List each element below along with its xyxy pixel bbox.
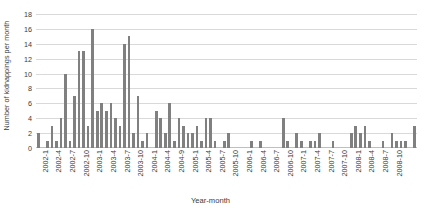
x-axis-tick-label: 2004-1 [150, 150, 159, 172]
bar [332, 141, 335, 148]
bar [96, 111, 99, 148]
bar [173, 141, 176, 148]
bar [205, 118, 208, 148]
bar [227, 133, 230, 148]
x-axis-tick-label: 2006-10 [286, 150, 295, 176]
bar [164, 133, 167, 148]
bar [250, 141, 253, 148]
x-axis-tick-label: 2005-7 [218, 150, 227, 172]
bar [73, 96, 76, 148]
x-axis-tick-label: 2002-1 [41, 150, 50, 172]
x-axis-tick-label: 2007-4 [313, 150, 322, 172]
y-axis-tick-label: 0 [28, 144, 32, 153]
x-axis-tick-label: 2008-7 [381, 150, 390, 172]
y-axis-tick-label: 10 [24, 69, 32, 78]
x-axis-tick-label: 2005-10 [231, 150, 240, 176]
bar [223, 141, 226, 148]
bar [359, 133, 362, 148]
bar [137, 96, 140, 148]
bar [318, 133, 321, 148]
bar [46, 141, 49, 148]
bar [382, 141, 385, 148]
bar [69, 141, 72, 148]
bar [354, 126, 357, 148]
bar [168, 103, 171, 148]
y-axis-tick-label: 4 [28, 114, 32, 123]
x-axis-tick-label: 2003-7 [123, 150, 132, 172]
x-axis-title: Year-month [0, 196, 421, 205]
bar [214, 141, 217, 148]
bar [155, 111, 158, 148]
bar [400, 141, 403, 148]
bar [91, 29, 94, 148]
x-axis-tick-label: 2007-10 [340, 150, 349, 176]
bar [191, 133, 194, 148]
x-axis-tick-label: 2002-7 [68, 150, 77, 172]
bar [146, 133, 149, 148]
bar [64, 74, 67, 148]
bar [51, 126, 54, 148]
y-axis-tick-label: 2 [28, 129, 32, 138]
y-axis-tick-label: 16 [24, 24, 32, 33]
bar [286, 141, 289, 148]
y-axis-tick-label: 12 [24, 54, 32, 63]
bar [209, 118, 212, 148]
bar [196, 126, 199, 148]
x-axis-tick-label: 2008-10 [395, 150, 404, 176]
bar [309, 141, 312, 148]
bar [200, 141, 203, 148]
x-axis-tick-label: 2008-4 [367, 150, 376, 172]
y-axis-title-text: Number of kidnappings per month [3, 20, 12, 130]
y-axis-tick-labels: 024681012141618 [14, 14, 34, 148]
bar-chart: Number of kidnappings per month 02468101… [0, 0, 421, 217]
bar [37, 133, 40, 148]
bar [60, 118, 63, 148]
bar [128, 36, 131, 148]
x-axis-tick-label: 2006-7 [272, 150, 281, 172]
x-axis-tick-label: 2005-1 [191, 150, 200, 172]
x-axis-tick-label: 2002-10 [82, 150, 91, 176]
x-axis-tick-label: 2004-9 [177, 150, 186, 172]
bar [110, 103, 113, 148]
bar [119, 126, 122, 148]
bar [391, 133, 394, 148]
x-axis-tick-label: 2007-1 [299, 150, 308, 172]
bar [368, 141, 371, 148]
bar [295, 133, 298, 148]
bar-series [36, 14, 417, 148]
bar [105, 111, 108, 148]
bar [123, 44, 126, 148]
bar [159, 118, 162, 148]
plot-area [36, 14, 417, 148]
x-axis-tick-label: 2006-1 [245, 150, 254, 172]
bar [404, 141, 407, 148]
x-axis-tick-label: 2005-4 [204, 150, 213, 172]
x-axis-tick-label: 2003-1 [95, 150, 104, 172]
bar [364, 126, 367, 148]
bar [259, 141, 262, 148]
y-axis-tick-label: 14 [24, 39, 32, 48]
bar [395, 141, 398, 148]
bar [82, 51, 85, 148]
bar [182, 126, 185, 148]
bar [350, 133, 353, 148]
bar [55, 141, 58, 148]
bar [100, 103, 103, 148]
bar [187, 133, 190, 148]
bar [87, 126, 90, 148]
bar [314, 141, 317, 148]
x-axis-tick-labels: 2002-12002-42002-72002-102003-12003-4200… [36, 150, 417, 190]
bar [141, 141, 144, 148]
y-axis-title: Number of kidnappings per month [0, 0, 14, 150]
bar [114, 118, 117, 148]
bar [178, 118, 181, 148]
bar [282, 118, 285, 148]
bar [78, 51, 81, 148]
bar [132, 133, 135, 148]
x-axis-tick-label: 2003-10 [136, 150, 145, 176]
x-axis-tick-label: 2003-4 [109, 150, 118, 172]
bar [300, 141, 303, 148]
x-axis-tick-label: 2007-7 [327, 150, 336, 172]
x-axis-tick-label: 2004-4 [163, 150, 172, 172]
y-axis-tick-label: 6 [28, 99, 32, 108]
